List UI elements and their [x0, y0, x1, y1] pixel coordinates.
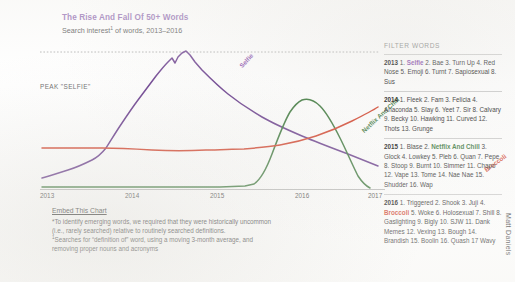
x-tick-2016: 2016 [295, 192, 309, 199]
footnote-one: 1Searches for “definition of” word, usin… [52, 235, 352, 253]
x-tick-2015: 2015 [210, 192, 224, 199]
filter-year-label-2015: 2015 [384, 143, 398, 150]
filter-year-items-2014: 1. Fleek 2. Fam 3. Felicia 4. Anaconda 5… [384, 96, 501, 131]
filter-word-highlight: Netflix And Chill [431, 143, 479, 150]
filter-year-label-2013: 2013 [384, 59, 398, 66]
filter-year-body-2015: 2015 1. Blase 2. Netflix And Chill 3. Gl… [384, 142, 502, 189]
embed-this-chart-link[interactable]: Embed This Chart [52, 207, 352, 214]
filter-year-body-2013: 2013 1. Selfie 2. Bae 3. Turn Up 4. Red … [384, 58, 502, 86]
filter-year-group-2015: 2015 1. Blase 2. Netflix And Chill 3. Gl… [384, 138, 502, 189]
page-title: The Rise And Fall Of 50+ Words [62, 13, 342, 22]
filter-word-highlight: Selfie [407, 59, 424, 66]
filter-year-group-2013: 2013 1. Selfie 2. Bae 3. Turn Up 4. Red … [384, 54, 502, 86]
x-tick-2014: 2014 [125, 192, 139, 199]
chart-svg [40, 40, 380, 190]
filter-year-group-2016: 2016 1. Triggered 2. Shook 3. Juji 4. Br… [384, 194, 502, 245]
subtitle-text-pre: Search interest [62, 26, 110, 35]
x-axis: 2013 2014 2015 2016 2017 [40, 189, 385, 205]
author-credit: Matt Daniels [505, 213, 512, 256]
series-line-broccoli [42, 107, 378, 151]
filter-year-body-2014: 2014 1. Fleek 2. Fam 3. Felicia 4. Anaco… [384, 95, 502, 133]
subtitle-text-post: of words, 2013–2016 [113, 26, 182, 35]
filter-year-group-2014: 2014 1. Fleek 2. Fam 3. Felicia 4. Anaco… [384, 91, 502, 133]
title-block: The Rise And Fall Of 50+ Words Search in… [62, 13, 342, 35]
filter-year-items-2013: 1. Selfie 2. Bae 3. Turn Up 4. Red Nose … [384, 59, 496, 85]
x-axis-line [40, 189, 385, 190]
filter-year-items-2016: 1. Triggered 2. Shook 3. Juji 4. Broccol… [384, 199, 502, 244]
filter-year-body-2016: 2016 1. Triggered 2. Shook 3. Juji 4. Br… [384, 198, 502, 245]
footnotes-block: Embed This Chart *To identify emerging w… [52, 207, 352, 254]
filter-year-label-2016: 2016 [384, 199, 398, 206]
chart-page: The Rise And Fall Of 50+ Words Search in… [0, 0, 515, 282]
filter-year-label-2014: 2014 [384, 96, 398, 103]
chart-subtitle: Search interest1 of words, 2013–2016 [62, 25, 342, 35]
peak-selfie-label: PEAK "SELFIE" [40, 83, 91, 90]
x-tick-2013: 2013 [40, 192, 54, 199]
filter-words-panel: FILTER WORDS 2013 1. Selfie 2. Bae 3. Tu… [384, 42, 502, 250]
footnote-star: *To identify emerging words, we required… [52, 217, 352, 235]
filter-word-highlight: Broccoli [384, 209, 409, 216]
filter-words-heading: FILTER WORDS [384, 42, 502, 49]
filter-year-items-2015: 1. Blase 2. Netflix And Chill 3. Glock 4… [384, 143, 499, 188]
plot-area: PEAK "SELFIE" Selfie Netflix And Chill B… [40, 40, 380, 190]
x-tick-2017: 2017 [368, 192, 382, 199]
footnote-one-text: Searches for “definition of” word, using… [52, 236, 253, 252]
